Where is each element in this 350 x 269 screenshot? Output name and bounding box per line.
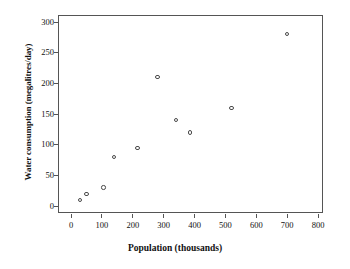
x-axis-tick (318, 214, 319, 218)
data-point (135, 146, 139, 150)
y-axis-tick (54, 144, 58, 145)
y-axis-tick (54, 206, 58, 207)
x-axis-tick (101, 214, 102, 218)
data-point (84, 192, 88, 196)
y-axis-tick-label: 100 (14, 140, 54, 149)
data-point (101, 185, 105, 189)
x-axis-tick (256, 214, 257, 218)
y-axis-tick (54, 175, 58, 176)
x-axis-tick (287, 214, 288, 218)
scatter-plot-figure: Water consumption (megalitres/day) Popul… (0, 0, 350, 269)
plot-area-frame (58, 15, 323, 213)
y-axis-tick-label: 300 (14, 18, 54, 27)
y-axis-tick (54, 83, 58, 84)
x-axis-tick (225, 214, 226, 218)
y-axis-tick (54, 114, 58, 115)
y-axis-tick-label: 50 (14, 171, 54, 180)
y-axis-tick-label: 200 (14, 79, 54, 88)
data-point (155, 75, 159, 79)
y-axis-tick (54, 22, 58, 23)
data-point (188, 130, 192, 134)
y-axis-tick (54, 52, 58, 53)
x-axis-tick-label: 800 (298, 221, 338, 230)
x-axis-tick (163, 214, 164, 218)
y-axis-tick-label: 150 (14, 110, 54, 119)
x-axis-tick (194, 214, 195, 218)
y-axis-tick-label: 250 (14, 48, 54, 57)
y-axis-tick-label: 0 (14, 202, 54, 211)
data-point (229, 106, 233, 110)
x-axis-tick (132, 214, 133, 218)
x-axis-title: Population (thousands) (0, 243, 350, 253)
x-axis-tick (71, 214, 72, 218)
